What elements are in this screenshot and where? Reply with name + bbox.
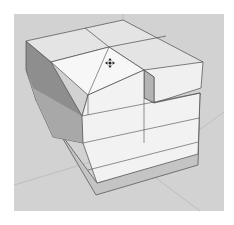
model-viewport[interactable]: 3D model viewport — [0, 0, 234, 225]
scene-canvas[interactable] — [0, 0, 234, 225]
